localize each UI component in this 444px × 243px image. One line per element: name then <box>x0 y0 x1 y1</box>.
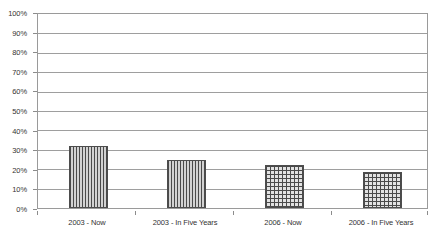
y-tick-label: 60% <box>12 87 27 96</box>
y-tick-label: 100% <box>8 9 27 18</box>
y-axis: 100% 90% 80% 70% 60% 50% 40% 30% 20% 10%… <box>0 13 33 209</box>
gridline <box>38 111 427 112</box>
x-tick-mark <box>427 211 428 215</box>
x-tick-mark <box>37 211 38 215</box>
x-tick-mark <box>331 211 332 215</box>
gridline <box>38 53 427 54</box>
gridline <box>38 130 427 131</box>
bar-chart: 100% 90% 80% 70% 60% 50% 40% 30% 20% 10%… <box>0 0 444 243</box>
y-tick-label: 50% <box>12 107 27 116</box>
x-tick-label: 2003 - In Five Years <box>153 218 218 227</box>
bar <box>265 165 304 208</box>
bar <box>69 146 108 208</box>
x-axis: 2003 - Now 2003 - In Five Years 2006 - N… <box>37 211 428 239</box>
bar <box>363 172 402 208</box>
y-tick-label: 70% <box>12 67 27 76</box>
bar <box>167 160 206 209</box>
y-tick-label: 10% <box>12 185 27 194</box>
y-tick-label: 20% <box>12 165 27 174</box>
x-tick-label: 2003 - Now <box>68 218 105 227</box>
y-tick-label: 90% <box>12 28 27 37</box>
x-tick-mark <box>135 211 136 215</box>
gridline <box>38 92 427 93</box>
x-tick-label: 2006 - Now <box>264 218 301 227</box>
y-tick-mark <box>33 209 37 210</box>
plot-area <box>37 13 428 209</box>
gridline <box>38 72 427 73</box>
y-tick-label: 80% <box>12 48 27 57</box>
x-tick-label: 2006 - In Five Years <box>349 218 414 227</box>
y-tick-label: 0% <box>16 205 27 214</box>
gridline <box>38 33 427 34</box>
y-tick-label: 40% <box>12 126 27 135</box>
y-tick-label: 30% <box>12 146 27 155</box>
x-tick-mark <box>233 211 234 215</box>
